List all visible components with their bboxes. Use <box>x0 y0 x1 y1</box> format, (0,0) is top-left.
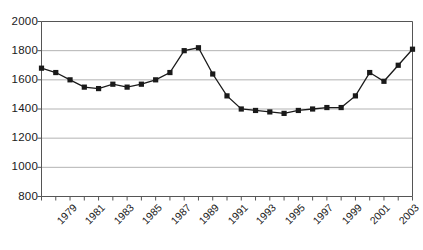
data-point-marker <box>296 108 301 113</box>
y-tick-label: 2000 <box>12 16 38 28</box>
data-point-marker <box>253 108 258 113</box>
data-point-marker <box>110 82 115 87</box>
x-tick-label: 1979 <box>54 202 78 226</box>
y-tick-label: 1600 <box>12 74 38 86</box>
data-point-marker <box>39 66 44 71</box>
data-point-marker <box>53 70 58 75</box>
y-tick-label: 1200 <box>12 132 38 144</box>
data-point-marker <box>67 77 72 82</box>
x-tick-label: 1987 <box>168 202 192 226</box>
data-point-marker <box>324 105 329 110</box>
data-point-marker <box>167 70 172 75</box>
y-axis-tick-marks <box>38 22 42 197</box>
x-axis-tick-labels: 1979198119831985198719891991199319951997… <box>0 202 423 250</box>
y-tick-label: 1400 <box>12 103 38 115</box>
data-point-marker <box>410 47 415 52</box>
data-point-marker <box>210 71 215 76</box>
x-tick-label: 2001 <box>368 202 392 226</box>
data-point-marker <box>267 109 272 114</box>
x-tick-label: 1981 <box>83 202 107 226</box>
data-point-marker <box>396 63 401 68</box>
data-point-marker <box>182 48 187 53</box>
x-axis-tick-marks <box>42 197 413 201</box>
x-tick-label: 1993 <box>254 202 278 226</box>
data-point-marker <box>367 70 372 75</box>
x-tick-label: 1995 <box>283 202 307 226</box>
y-tick-label: 800 <box>18 191 38 203</box>
data-point-marker <box>96 86 101 91</box>
data-point-marker <box>139 82 144 87</box>
data-point-marker <box>353 93 358 98</box>
data-series-line <box>42 48 413 114</box>
x-tick-label: 2003 <box>397 202 421 226</box>
data-point-marker <box>153 77 158 82</box>
line-chart: 200018001600140012001000800 197919811983… <box>0 0 423 250</box>
x-tick-label: 1985 <box>140 202 164 226</box>
data-point-marker <box>196 45 201 50</box>
x-tick-label: 1991 <box>226 202 250 226</box>
x-tick-label: 1989 <box>197 202 221 226</box>
data-point-marker <box>125 85 130 90</box>
data-point-marker <box>281 111 286 116</box>
data-point-marker <box>339 105 344 110</box>
x-tick-label: 1999 <box>340 202 364 226</box>
x-tick-label: 1997 <box>311 202 335 226</box>
data-point-marker <box>310 106 315 111</box>
data-point-marker <box>381 79 386 84</box>
data-point-marker <box>239 106 244 111</box>
y-tick-label: 1000 <box>12 162 38 174</box>
x-tick-label: 1983 <box>111 202 135 226</box>
data-point-marker <box>82 85 87 90</box>
y-tick-label: 1800 <box>12 45 38 57</box>
data-point-marker <box>224 93 229 98</box>
data-point-markers <box>39 45 415 116</box>
